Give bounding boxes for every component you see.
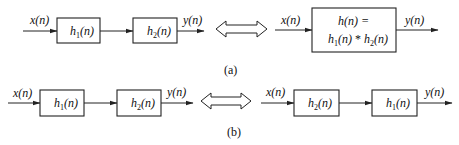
- input-label: x(n): [29, 13, 49, 27]
- panel-a: x(n) h1(n) h2(n) y(n) x(n) h(n) = h1(n) …: [23, 8, 438, 77]
- block-h-line1: h(n) =: [338, 14, 369, 28]
- panel-b-left-cascade: x(n) h1(n) h2(n) y(n): [8, 85, 193, 116]
- input-label: x(n): [12, 86, 32, 100]
- block-h2-label: h2(n): [131, 96, 155, 112]
- panel-b: x(n) h1(n) h2(n) y(n) x(n) h2(n) h1(n) y…: [8, 85, 452, 139]
- block-h1-label: h1(n): [54, 96, 78, 112]
- block-h1-label: h1(n): [386, 96, 410, 112]
- output-label: y(n): [424, 85, 444, 99]
- panel-a-right-equivalent: x(n) h(n) = h1(n) * h2(n) y(n): [275, 8, 438, 52]
- block-h2-label: h2(n): [147, 24, 171, 40]
- equivalence-double-arrow-icon: [216, 21, 267, 37]
- convolution-cascade-diagram: x(n) h1(n) h2(n) y(n) x(n) h(n) = h1(n) …: [0, 0, 459, 145]
- caption-a: (a): [224, 63, 237, 77]
- caption-b: (b): [227, 125, 241, 139]
- panel-a-left-cascade: x(n) h1(n) h2(n) y(n): [23, 13, 204, 43]
- input-label: x(n): [280, 13, 300, 27]
- block-h2-label: h2(n): [308, 96, 332, 112]
- panel-b-right-cascade: x(n) h2(n) h1(n) y(n): [261, 85, 452, 116]
- block-h1-label: h1(n): [70, 24, 94, 40]
- input-label: x(n): [265, 85, 285, 99]
- output-label: y(n): [404, 13, 424, 27]
- output-label: y(n): [166, 85, 186, 99]
- output-label: y(n): [182, 13, 202, 27]
- equivalence-double-arrow-icon: [201, 93, 251, 109]
